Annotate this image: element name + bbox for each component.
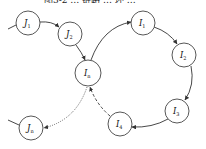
edge-J2-In <box>76 45 85 60</box>
node-Jn: Jn <box>19 116 43 140</box>
edge-In-Jn <box>44 87 87 128</box>
linked-list-cycle-diagram: J1 J2 In I1 I2 I3 I4 Jn <box>0 0 206 149</box>
edge-J1-J2 <box>40 22 59 27</box>
node-J1: J1 <box>16 11 40 35</box>
node-I2: I2 <box>172 43 196 67</box>
node-J2: J2 <box>58 22 82 46</box>
edge-In-I1 <box>91 22 131 60</box>
edge-external-J1 <box>8 25 16 29</box>
edge-I1-I2 <box>154 27 177 44</box>
edge-I3-I4 <box>132 119 168 127</box>
edge-I2-I3 <box>185 66 192 100</box>
edge-I4-In <box>90 87 110 116</box>
node-I1: I1 <box>131 11 155 35</box>
node-In: In <box>75 60 101 86</box>
node-I4: I4 <box>108 112 132 136</box>
edge-external-Jn <box>8 120 19 125</box>
node-I3: I3 <box>165 99 189 123</box>
